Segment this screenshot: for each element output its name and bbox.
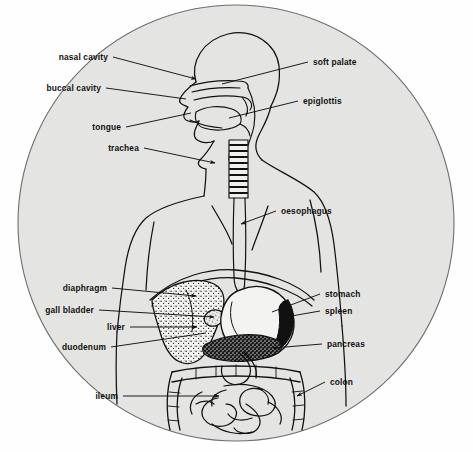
label-ileum: ileum	[95, 392, 118, 400]
label-buccal-cavity: buccal cavity	[46, 84, 101, 92]
trachea	[229, 140, 248, 198]
digestive-system-illustration	[0, 0, 473, 452]
label-liver: liver	[107, 323, 125, 331]
label-tongue: tongue	[92, 123, 121, 131]
diagram-canvas: nasal cavitybuccal cavitytonguetracheadi…	[0, 0, 473, 452]
label-epiglottis: epiglottis	[303, 97, 342, 105]
label-diaphragm: diaphragm	[63, 284, 107, 292]
label-soft-palate: soft palate	[313, 58, 357, 66]
label-colon: colon	[330, 378, 353, 386]
label-duodenum: duodenum	[62, 343, 106, 351]
label-oesophagus: oesophagus	[281, 207, 332, 215]
label-pancreas: pancreas	[327, 340, 365, 348]
label-spleen: spleen	[325, 307, 352, 315]
label-trachea: trachea	[108, 144, 139, 152]
label-gall-bladder: gall bladder	[45, 306, 94, 314]
label-stomach: stomach	[325, 290, 361, 298]
label-nasal-cavity: nasal cavity	[59, 53, 108, 61]
